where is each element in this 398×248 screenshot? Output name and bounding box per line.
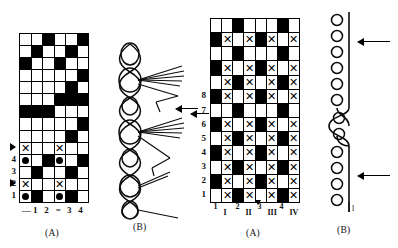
right-pattern-cell[interactable]	[256, 104, 266, 117]
right-pattern-cell[interactable]: ✕	[222, 161, 232, 174]
right-pattern-cell[interactable]	[222, 19, 232, 32]
left-pattern-cell[interactable]	[55, 131, 66, 142]
right-pattern-cell[interactable]: ✕	[267, 146, 277, 159]
right-pattern-grid[interactable]: ✕✕✕✕✕✕✕✕✕✕✕✕✕✕✕✕✕✕✕✕✕✕✕✕✕✕✕✕✕✕✕✕✕✕✕✕✕✕✕✕	[210, 18, 300, 203]
right-pattern-cell[interactable]	[289, 47, 299, 60]
left-pattern-cell[interactable]	[78, 131, 89, 142]
right-pattern-cell[interactable]	[211, 47, 221, 60]
right-pattern-cell[interactable]: ✕	[267, 61, 277, 74]
right-pattern-cell[interactable]	[211, 33, 221, 46]
right-pattern-cell[interactable]	[233, 146, 243, 159]
left-pattern-cell[interactable]: ✕	[20, 143, 31, 154]
right-pattern-cell[interactable]: ✕	[289, 90, 299, 103]
left-pattern-cell[interactable]	[66, 191, 77, 202]
right-pattern-cell[interactable]	[233, 19, 243, 32]
left-pattern-cell[interactable]	[78, 191, 89, 202]
left-pattern-cell[interactable]	[43, 58, 54, 69]
right-pattern-cell[interactable]: ✕	[244, 90, 254, 103]
right-pattern-cell[interactable]: ✕	[222, 189, 232, 202]
right-pattern-cell[interactable]	[278, 19, 288, 32]
left-pattern-cell[interactable]	[78, 46, 89, 57]
left-pattern-cell[interactable]	[20, 94, 31, 105]
right-pattern-cell[interactable]: ✕	[244, 118, 254, 131]
right-pattern-cell[interactable]	[278, 47, 288, 60]
right-pattern-cell[interactable]: ✕	[289, 161, 299, 174]
right-pattern-cell[interactable]	[256, 19, 266, 32]
right-pattern-cell[interactable]: ✕	[222, 33, 232, 46]
left-pattern-cell[interactable]	[55, 34, 66, 45]
left-pattern-cell[interactable]	[55, 155, 66, 166]
left-pattern-cell[interactable]	[55, 94, 66, 105]
right-pattern-cell[interactable]	[278, 90, 288, 103]
right-pattern-cell[interactable]	[278, 161, 288, 174]
left-pattern-cell[interactable]	[78, 118, 89, 129]
right-pattern-cell[interactable]	[233, 132, 243, 145]
right-pattern-cell[interactable]	[256, 161, 266, 174]
left-pattern-cell[interactable]	[32, 131, 43, 142]
right-pattern-cell[interactable]: ✕	[289, 132, 299, 145]
left-pattern-cell[interactable]	[20, 58, 31, 69]
right-pattern-cell[interactable]	[256, 175, 266, 188]
left-pattern-cell[interactable]	[43, 70, 54, 81]
right-pattern-cell[interactable]: ✕	[244, 146, 254, 159]
right-pattern-cell[interactable]	[256, 90, 266, 103]
right-pattern-cell[interactable]	[256, 76, 266, 89]
right-pattern-cell[interactable]: ✕	[222, 146, 232, 159]
right-pattern-cell[interactable]	[233, 76, 243, 89]
right-pattern-cell[interactable]	[211, 61, 221, 74]
right-pattern-cell[interactable]	[233, 175, 243, 188]
left-pattern-cell[interactable]	[20, 118, 31, 129]
left-pattern-cell[interactable]	[55, 82, 66, 93]
left-pattern-cell[interactable]	[20, 131, 31, 142]
left-pattern-cell[interactable]	[66, 167, 77, 178]
left-pattern-cell[interactable]	[43, 155, 54, 166]
right-pattern-cell[interactable]	[256, 61, 266, 74]
right-pattern-cell[interactable]: ✕	[289, 146, 299, 159]
left-pattern-cell[interactable]	[32, 70, 43, 81]
left-pattern-grid[interactable]: ✕✕✕✕	[19, 33, 89, 203]
left-pattern-cell[interactable]	[43, 131, 54, 142]
right-pattern-cell[interactable]	[256, 146, 266, 159]
left-pattern-cell[interactable]	[78, 179, 89, 190]
right-pattern-cell[interactable]: ✕	[222, 76, 232, 89]
right-pattern-cell[interactable]	[289, 104, 299, 117]
left-pattern-cell[interactable]	[32, 143, 43, 154]
right-pattern-cell[interactable]	[244, 104, 254, 117]
left-pattern-cell[interactable]	[32, 58, 43, 69]
right-pattern-cell[interactable]: ✕	[289, 189, 299, 202]
left-pattern-cell[interactable]	[32, 82, 43, 93]
right-pattern-cell[interactable]: ✕	[289, 118, 299, 131]
left-pattern-cell[interactable]	[43, 118, 54, 129]
right-pattern-cell[interactable]	[289, 19, 299, 32]
right-pattern-cell[interactable]	[211, 189, 221, 202]
right-pattern-cell[interactable]: ✕	[289, 76, 299, 89]
right-pattern-cell[interactable]	[222, 47, 232, 60]
right-pattern-cell[interactable]: ✕	[244, 33, 254, 46]
right-pattern-cell[interactable]: ✕	[244, 175, 254, 188]
right-pattern-cell[interactable]: ✕	[267, 175, 277, 188]
left-pattern-cell[interactable]	[43, 191, 54, 202]
left-pattern-cell[interactable]	[78, 106, 89, 117]
left-pattern-cell[interactable]	[78, 143, 89, 154]
right-pattern-cell[interactable]: ✕	[289, 175, 299, 188]
left-pattern-cell[interactable]	[55, 191, 66, 202]
right-pattern-cell[interactable]: ✕	[267, 132, 277, 145]
left-pattern-cell[interactable]	[32, 167, 43, 178]
right-pattern-cell[interactable]	[278, 132, 288, 145]
left-pattern-cell[interactable]	[43, 143, 54, 154]
left-pattern-cell[interactable]	[55, 106, 66, 117]
left-pattern-cell[interactable]	[43, 46, 54, 57]
right-pattern-cell[interactable]	[256, 33, 266, 46]
right-pattern-cell[interactable]: ✕	[244, 189, 254, 202]
right-pattern-cell[interactable]	[233, 189, 243, 202]
left-pattern-cell[interactable]	[55, 58, 66, 69]
right-pattern-cell[interactable]	[211, 104, 221, 117]
left-pattern-cell[interactable]	[55, 46, 66, 57]
left-pattern-cell[interactable]: ✕	[55, 143, 66, 154]
left-pattern-cell[interactable]	[20, 191, 31, 202]
right-pattern-cell[interactable]: ✕	[222, 118, 232, 131]
left-pattern-cell[interactable]	[66, 131, 77, 142]
left-pattern-cell[interactable]	[32, 155, 43, 166]
right-pattern-cell[interactable]	[256, 47, 266, 60]
right-pattern-cell[interactable]	[278, 175, 288, 188]
